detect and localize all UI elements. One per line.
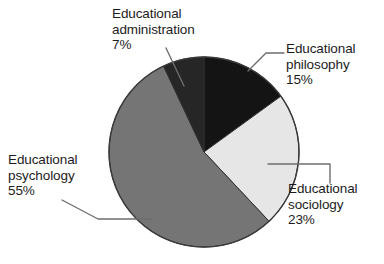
pie-label-educational-administration: Educational administration 7%	[112, 6, 195, 53]
pie-chart-figure: Educational administration 7% Educationa…	[0, 0, 384, 264]
pie-label-educational-psychology: Educational psychology 55%	[8, 152, 77, 199]
pie-label-administration-line2: administration	[112, 22, 195, 38]
pie-label-philosophy-line2: philosophy	[286, 57, 355, 73]
pie-label-philosophy-line1: Educational	[286, 41, 355, 56]
pie-label-administration-line1: Educational	[112, 6, 181, 21]
pie-label-psychology-line2: psychology	[8, 168, 77, 184]
pie-label-psychology-line1: Educational	[8, 152, 77, 167]
pie-label-philosophy-percent: 15%	[286, 72, 355, 88]
pie-label-educational-sociology: Educational sociology 23%	[288, 181, 357, 228]
pie-label-administration-percent: 7%	[112, 37, 195, 53]
pie-label-sociology-percent: 23%	[288, 212, 357, 228]
pie-label-educational-philosophy: Educational philosophy 15%	[286, 41, 355, 88]
pie-label-psychology-percent: 55%	[8, 183, 77, 199]
pie-label-sociology-line1: Educational	[288, 181, 357, 196]
leader-line-philosophy	[248, 53, 284, 71]
pie-label-sociology-line2: sociology	[288, 197, 357, 213]
